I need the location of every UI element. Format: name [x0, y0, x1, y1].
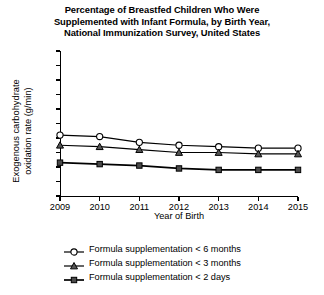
chart-figure: Percentage of Breastfed Children Who Wer…	[0, 0, 324, 295]
legend-label: Formula supplementation < 2 days	[89, 273, 230, 282]
data-point	[136, 139, 142, 145]
legend-item: Formula supplementation < 2 days	[63, 271, 293, 285]
legend-label: Formula supplementation < 3 months	[89, 259, 241, 268]
y-axis-title-line-2: oxidation rate (g/min)	[23, 51, 35, 211]
x-tick	[99, 197, 100, 201]
legend-marker-open-circle-icon	[63, 244, 85, 256]
chart-title: Percentage of Breastfed Children Who Wer…	[22, 4, 302, 39]
chart-title-line-3: National Immunization Survey, United Sta…	[22, 27, 302, 39]
data-point	[57, 160, 62, 165]
data-point	[57, 132, 63, 138]
legend-marker-filled-triangle-icon	[63, 258, 85, 270]
data-point	[176, 166, 181, 171]
y-axis-title: Exogenous carbohydrate oxidation rate (g…	[11, 51, 37, 211]
x-tick	[297, 197, 298, 201]
data-point	[176, 142, 182, 148]
x-tick	[59, 197, 60, 201]
x-tick	[178, 197, 179, 201]
legend-item: Formula supplementation < 3 months	[63, 257, 293, 271]
x-tick	[218, 197, 219, 201]
data-point	[295, 167, 300, 172]
data-point	[256, 167, 261, 172]
x-axis-title: Year of Birth	[60, 211, 298, 221]
series-plot	[60, 51, 298, 196]
data-point	[137, 163, 142, 168]
chart-title-line-1: Percentage of Breastfed Children Who Wer…	[22, 4, 302, 16]
data-point	[97, 161, 102, 166]
legend-label: Formula supplementation < 6 months	[89, 245, 241, 254]
chart-title-line-2: Supplemented with Infant Formula, by Bir…	[22, 16, 302, 28]
y-axis-title-line-1: Exogenous carbohydrate	[11, 51, 23, 211]
chart-legend: Formula supplementation < 6 monthsFormul…	[63, 243, 293, 285]
legend-marker-filled-square-icon	[63, 272, 85, 284]
legend-item: Formula supplementation < 6 months	[63, 243, 293, 257]
data-point	[97, 133, 103, 139]
data-point	[216, 167, 221, 172]
plot-area: 0102030405060708090100 20092010201120122…	[60, 51, 298, 196]
x-tick	[139, 197, 140, 201]
x-tick	[258, 197, 259, 201]
series-3	[57, 160, 300, 173]
